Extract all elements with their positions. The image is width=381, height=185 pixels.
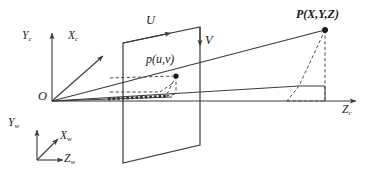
construction-dashed-group [110,30,325,101]
dash-inner-foot-to-axis [287,86,299,101]
image-point-dot [173,73,178,78]
image-point-label: p(u,v) [146,53,174,65]
world-y-axis-label: Yw [8,117,19,129]
camera-x-axis-label: Xc [68,30,78,42]
image-plane-quad [123,27,200,163]
dash-image-point-slant [166,76,176,96]
image-u-axis-label: U [146,14,155,27]
image-u-axis-line [123,34,168,43]
camera-z-axis-label: Zc [342,104,352,116]
dash-p-to-inner-foot [299,30,325,86]
projection-diagram-svg [0,0,381,185]
world-point-dot [322,27,328,33]
world-z-axis-label: Zw [64,153,75,165]
world-x-axis-label: Xw [60,130,72,142]
world-x-axis-line [37,139,58,160]
image-v-axis-label: V [205,34,213,47]
image-plane-group [123,27,200,163]
dash-foot-to-image-point-base [160,83,173,92]
world-point-label: P(X,Y,Z) [296,8,339,20]
camera-axes-group [52,33,356,101]
origin-label: O [38,90,47,103]
figure-canvas: Yc Xc Zc O U V p(u,v) P(X,Y,Z) Yw Xw Zw [0,0,381,185]
camera-y-axis-label: Yc [22,30,32,42]
